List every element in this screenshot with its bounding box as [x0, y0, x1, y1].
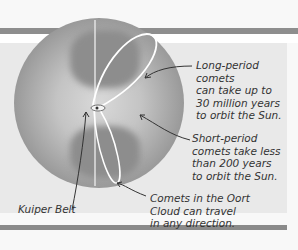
- short-period-label: Short-period comets take less than 200 y…: [192, 132, 281, 182]
- long-period-label: Long-period comets can take up to 30 mil…: [196, 59, 298, 122]
- oort-cloud-arrow: [117, 183, 146, 196]
- long-period-orbit: [92, 34, 156, 110]
- short-period-arrow: [140, 115, 190, 140]
- kuiper-belt-arrow: [72, 112, 86, 210]
- long-period-arrow: [145, 66, 192, 78]
- short-period-orbit: [94, 110, 120, 183]
- sun-icon: [96, 107, 99, 110]
- oort-cloud-label: Comets in the Oort Cloud can travel in a…: [150, 192, 250, 230]
- kuiper-belt-label: Kuiper Belt: [18, 203, 76, 216]
